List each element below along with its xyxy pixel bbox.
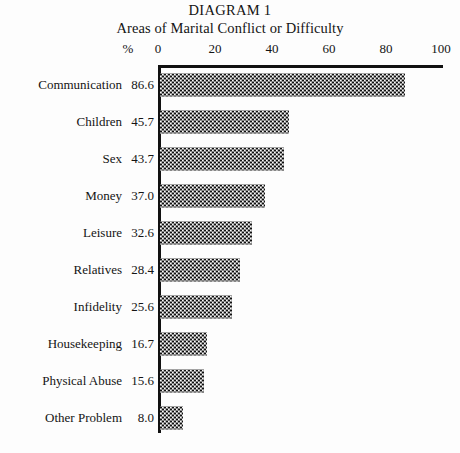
bar [160,295,232,318]
bar [160,184,265,207]
value-label: 86.6 [126,77,154,93]
value-label: 8.0 [126,410,154,426]
category-label: Money [0,188,122,204]
category-label: Infidelity [0,299,122,315]
value-label: 43.7 [126,151,154,167]
x-tick-20: 20 [200,41,230,57]
bar-rows: Communication86.6Children45.7Sex43.7Mone… [0,66,460,436]
chart-title: DIAGRAM 1 [0,2,460,19]
value-label: 25.6 [126,299,154,315]
bar [160,110,289,133]
value-label: 16.7 [126,336,154,352]
bar-row: Children45.7 [0,103,460,140]
x-tick-80: 80 [371,41,401,57]
x-tick-60: 60 [314,41,344,57]
category-label: Other Problem [0,410,122,426]
category-label: Children [0,114,122,130]
percent-symbol-label: % [120,41,136,57]
bar-row: Housekeeping16.7 [0,325,460,362]
value-label: 28.4 [126,262,154,278]
chart-subtitle: Areas of Marital Conflict or Difficulty [0,19,460,37]
bar [160,221,252,244]
bar-row: Physical Abuse15.6 [0,362,460,399]
bar [160,73,405,96]
category-label: Relatives [0,262,122,278]
bar [160,332,207,355]
x-axis-header: % 0 20 40 60 80 100 [0,41,460,61]
bar-row: Sex43.7 [0,140,460,177]
value-label: 15.6 [126,373,154,389]
category-label: Physical Abuse [0,373,122,389]
bar [160,369,204,392]
x-tick-40: 40 [257,41,287,57]
category-label: Sex [0,151,122,167]
bar [160,147,284,170]
diagram-1-chart: DIAGRAM 1 Areas of Marital Conflict or D… [0,0,460,453]
bar-row: Communication86.6 [0,66,460,103]
bar [160,406,183,429]
category-label: Leisure [0,225,122,241]
bar-row: Other Problem8.0 [0,399,460,436]
value-label: 45.7 [126,114,154,130]
bar-row: Money37.0 [0,177,460,214]
category-label: Communication [0,77,122,93]
value-label: 37.0 [126,188,154,204]
bar-row: Leisure32.6 [0,214,460,251]
x-tick-100: 100 [426,41,456,57]
bar-row: Infidelity25.6 [0,288,460,325]
bar [160,258,240,281]
x-tick-0: 0 [143,41,173,57]
bar-row: Relatives28.4 [0,251,460,288]
chart-title-block: DIAGRAM 1 Areas of Marital Conflict or D… [0,2,460,37]
category-label: Housekeeping [0,336,122,352]
value-label: 32.6 [126,225,154,241]
